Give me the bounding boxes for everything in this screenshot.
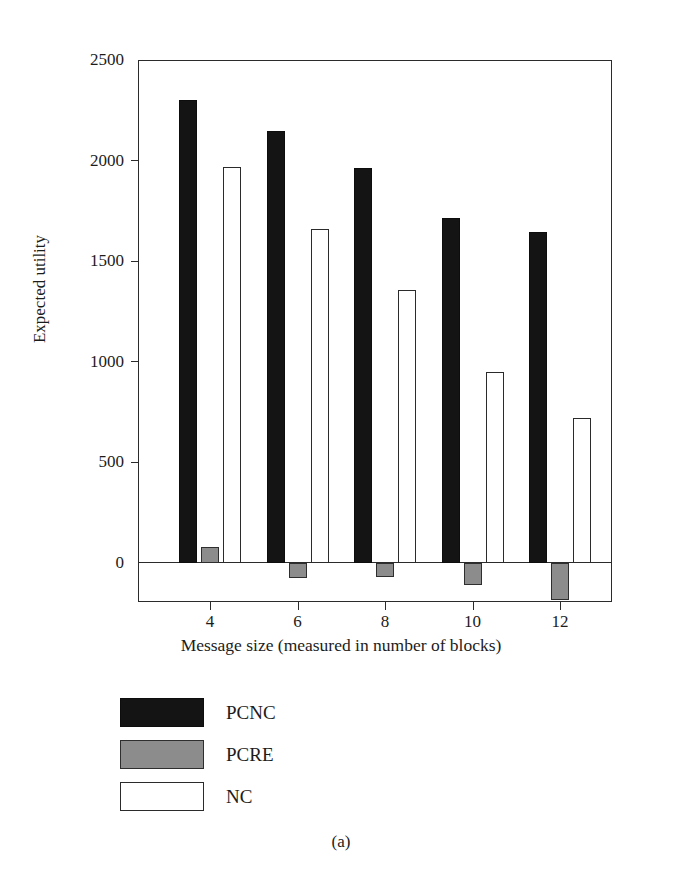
bar-pcre-10 xyxy=(464,563,482,585)
bar-pcre-4 xyxy=(201,547,219,563)
y-tick-mark xyxy=(131,361,139,362)
legend-swatch-nc xyxy=(120,782,204,811)
x-tick-mark xyxy=(473,602,474,610)
legend-swatch-pcre xyxy=(120,740,204,769)
x-tick-label: 6 xyxy=(268,612,328,632)
x-tick-label: 4 xyxy=(180,612,240,632)
bar-pcnc-6 xyxy=(267,131,285,563)
y-tick-label: 2000 xyxy=(4,152,124,169)
y-tick-mark xyxy=(131,160,139,161)
y-tick-label: 2500 xyxy=(4,51,124,68)
chart-legend: PCNC PCRE NC xyxy=(120,696,420,822)
legend-label-pcre: PCRE xyxy=(226,741,274,768)
bar-pcnc-4 xyxy=(179,100,197,563)
legend-item-nc[interactable]: NC xyxy=(120,780,420,822)
bar-pcnc-8 xyxy=(354,168,372,563)
y-axis-tick-labels: 05001000150020002500 xyxy=(0,0,124,869)
bar-nc-12 xyxy=(573,418,591,563)
bar-pcre-8 xyxy=(376,563,394,577)
x-tick-label: 8 xyxy=(355,612,415,632)
y-tick-mark xyxy=(131,261,139,262)
y-tick-label: 1500 xyxy=(4,252,124,269)
y-tick-mark xyxy=(131,462,139,463)
x-tick-label: 10 xyxy=(443,612,503,632)
x-tick-label: 12 xyxy=(530,612,590,632)
x-tick-mark xyxy=(210,602,211,610)
legend-label-pcnc: PCNC xyxy=(226,699,276,726)
legend-item-pcnc[interactable]: PCNC xyxy=(120,696,420,738)
x-axis-title: Message size (measured in number of bloc… xyxy=(0,634,682,656)
bar-pcre-12 xyxy=(551,563,569,600)
bar-nc-4 xyxy=(223,167,241,563)
legend-label-nc: NC xyxy=(226,783,252,810)
bar-pcnc-12 xyxy=(529,232,547,563)
y-tick-label: 1000 xyxy=(4,353,124,370)
y-tick-label: 500 xyxy=(4,453,124,470)
x-tick-mark xyxy=(298,602,299,610)
y-axis-title: Expected utility xyxy=(31,179,49,399)
bar-pcnc-10 xyxy=(442,218,460,563)
legend-item-pcre[interactable]: PCRE xyxy=(120,738,420,780)
y-tick-label: 0 xyxy=(4,554,124,571)
bar-nc-6 xyxy=(311,229,329,563)
bar-nc-10 xyxy=(486,372,504,563)
bar-pcre-6 xyxy=(289,563,307,578)
x-tick-mark xyxy=(385,602,386,610)
legend-swatch-pcnc xyxy=(120,698,204,727)
bar-nc-8 xyxy=(398,290,416,563)
figure-caption: (a) xyxy=(0,832,682,852)
x-tick-mark xyxy=(560,602,561,610)
figure-panel-a: 05001000150020002500 Expected utility 46… xyxy=(0,0,682,869)
